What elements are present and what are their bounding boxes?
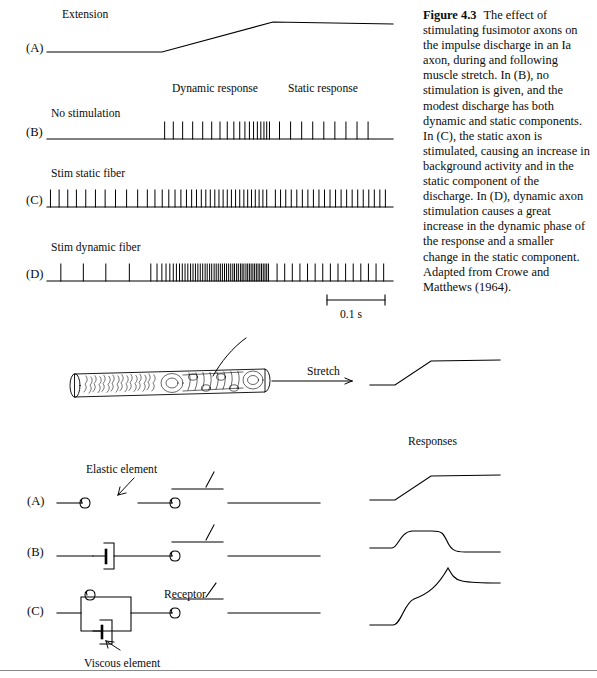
- model-c-diagram: [57, 583, 320, 650]
- trace-c-spikes: [50, 190, 385, 207]
- elastic-element-arrow: [118, 478, 134, 495]
- model-c-spring-receptor: [170, 608, 180, 618]
- model-a-spring-1: [80, 498, 90, 508]
- model-b-receptor-lead: [206, 525, 214, 540]
- response-curve-model-c: [370, 568, 500, 625]
- response-curve-model-b: [370, 531, 500, 552]
- figure-artwork: [0, 0, 597, 678]
- trace-d-spikes: [61, 264, 384, 281]
- page-divider: [0, 670, 597, 671]
- scale-bar: [327, 295, 385, 305]
- response-curve-spindle: [370, 360, 500, 385]
- model-c-receptor-lead: [206, 583, 216, 597]
- model-a-spring-2: [170, 498, 180, 508]
- trace-a-extension-ramp: [47, 22, 393, 52]
- figure-page: Figure 4.3The effect of stimulating fusi…: [0, 0, 597, 678]
- stretch-arrow: [272, 378, 352, 384]
- model-a-receptor-lead: [206, 472, 214, 487]
- model-c-frame: [81, 597, 131, 631]
- model-a-diagram: [57, 472, 320, 508]
- model-b-diagram: [57, 525, 320, 569]
- trace-b-spikes: [165, 122, 368, 139]
- model-b-spring: [170, 551, 180, 561]
- muscle-spindle-drawing: [70, 338, 352, 397]
- model-c-spring-parallel: [85, 590, 95, 600]
- response-curve-model-a: [370, 475, 500, 500]
- viscous-element-arrow: [106, 641, 120, 650]
